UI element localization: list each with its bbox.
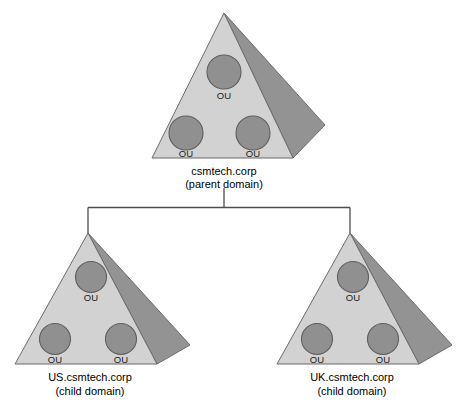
ou-label: OU xyxy=(346,292,361,303)
domain-name-label: US.csmtech.corp xyxy=(48,371,132,383)
ou-circle-icon xyxy=(76,262,107,293)
domain-node-parent[interactable]: OU OU OU csmtech.corp (parent domain) xyxy=(152,13,325,190)
domain-role-label: (parent domain) xyxy=(185,178,263,190)
ou-label: OU xyxy=(246,148,261,159)
ou-circle-icon xyxy=(207,55,241,89)
domain-node-child-us[interactable]: OU OU OU US.csmtech.corp (child domain) xyxy=(15,233,190,397)
domain-name-label: csmtech.corp xyxy=(191,165,256,177)
domain-node-child-uk[interactable]: OU OU OU UK.csmtech.corp (child domain) xyxy=(277,233,452,397)
ou-circle-icon xyxy=(40,324,71,355)
ou-label: OU xyxy=(84,292,99,303)
domain-name-label: UK.csmtech.corp xyxy=(310,371,394,383)
ou-circle-icon xyxy=(368,324,399,355)
ou-circle-icon xyxy=(302,324,333,355)
domain-tree-diagram: OU OU OU csmtech.corp (parent domain) xyxy=(0,0,473,412)
ou-label: OU xyxy=(48,354,63,365)
domain-role-label: (child domain) xyxy=(317,385,386,397)
connector-bracket xyxy=(88,188,350,233)
ou-circle-icon xyxy=(338,262,369,293)
ou-label: OU xyxy=(217,90,232,101)
ou-circle-icon xyxy=(236,116,270,150)
ou-label: OU xyxy=(179,148,194,159)
diagram-canvas: OU OU OU csmtech.corp (parent domain) xyxy=(0,0,473,412)
domain-role-label: (child domain) xyxy=(55,385,124,397)
ou-circle-icon xyxy=(106,324,137,355)
ou-label: OU xyxy=(310,354,325,365)
ou-circle-icon xyxy=(169,116,203,150)
ou-label: OU xyxy=(376,354,391,365)
ou-label: OU xyxy=(114,354,129,365)
